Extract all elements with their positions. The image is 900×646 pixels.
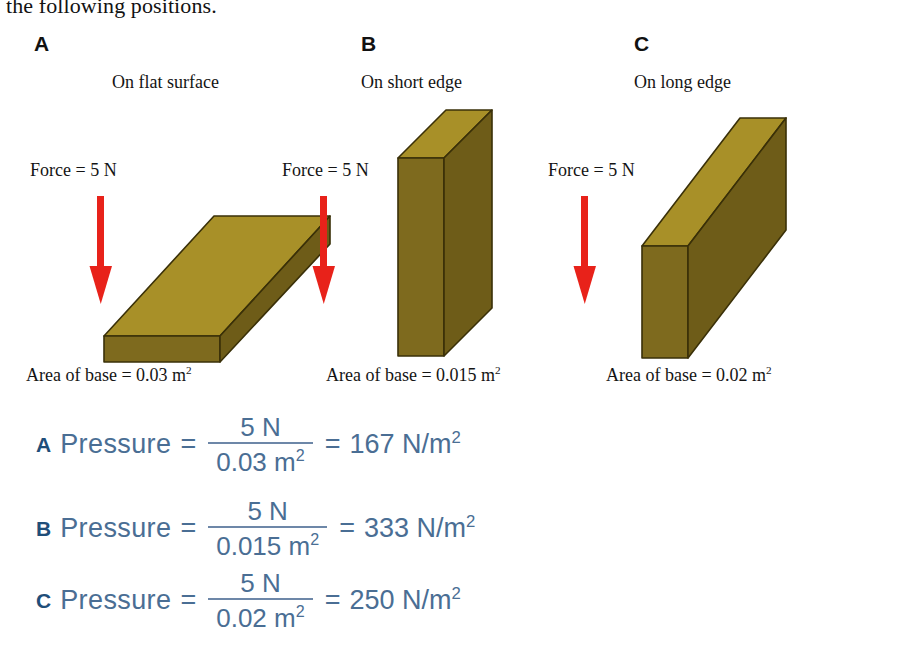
equation-equals2-c: = [325, 587, 341, 614]
equation-equals2-a: = [325, 431, 341, 458]
equation-result-a-text: 167 N/m [349, 429, 451, 459]
force-arrow-c [572, 196, 598, 306]
area-label-c-exponent: 2 [766, 364, 772, 376]
block-c-long-edge [634, 110, 796, 364]
area-label-b: Area of base = 0.015 m2 [326, 364, 501, 386]
equation-word-a: Pressure [60, 431, 171, 458]
equation-equals-b: = [180, 515, 196, 542]
area-label-a: Area of base = 0.03 m2 [26, 364, 192, 386]
equation-fraction-b: 5 N 0.015 m2 [208, 498, 327, 559]
panel-caption-b: On short edge [361, 72, 462, 93]
equation-word-b: Pressure [60, 515, 171, 542]
force-label-b: Force = 5 N [282, 160, 369, 181]
equation-result-b-exponent: 2 [466, 512, 475, 531]
panel-letter-a: A [34, 32, 49, 56]
area-label-c: Area of base = 0.02 m2 [606, 364, 772, 386]
area-label-c-text: Area of base = 0.02 m [606, 365, 766, 385]
area-label-a-exponent: 2 [186, 364, 192, 376]
equation-result-b-text: 333 N/m [364, 513, 466, 543]
equation-denominator-b-text: 0.015 m [216, 531, 310, 561]
panel-caption-c: On long edge [634, 72, 731, 93]
equation-numerator-b: 5 N [239, 498, 295, 526]
block-b-short-edge [382, 106, 508, 362]
equation-numerator-c: 5 N [232, 570, 288, 598]
panel-letter-b: B [361, 32, 376, 56]
equation-denominator-a-text: 0.03 m [216, 447, 296, 477]
equation-denominator-b-exponent: 2 [310, 530, 319, 548]
equation-row-a: A Pressure = 5 N 0.03 m2 = 167 N/m2 [36, 414, 461, 475]
equation-row-b: B Pressure = 5 N 0.015 m2 = 333 N/m2 [36, 498, 475, 559]
equation-equals-a: = [180, 431, 196, 458]
equation-denominator-c-exponent: 2 [296, 602, 305, 620]
equation-row-c: C Pressure = 5 N 0.02 m2 = 250 N/m2 [36, 570, 461, 631]
equation-result-c-exponent: 2 [452, 584, 461, 603]
panel-caption-a: On flat surface [112, 72, 219, 93]
block-a-flat-surface [92, 204, 342, 366]
equation-result-c-text: 250 N/m [349, 585, 451, 615]
equation-numerator-a: 5 N [232, 414, 288, 442]
equation-result-b: 333 N/m2 [364, 514, 475, 542]
equation-equals-c: = [180, 587, 196, 614]
force-label-c: Force = 5 N [548, 160, 635, 181]
equation-word-c: Pressure [60, 587, 171, 614]
equation-denominator-c-text: 0.02 m [216, 603, 296, 633]
force-label-a: Force = 5 N [30, 160, 117, 181]
area-label-b-exponent: 2 [495, 364, 501, 376]
equation-result-a-exponent: 2 [452, 428, 461, 447]
area-label-b-text: Area of base = 0.015 m [326, 365, 495, 385]
equation-letter-a: A [36, 434, 51, 455]
equation-denominator-b: 0.015 m2 [208, 528, 327, 559]
area-label-a-text: Area of base = 0.03 m [26, 365, 186, 385]
equation-equals2-b: = [339, 515, 355, 542]
force-arrow-b [311, 196, 337, 306]
equation-fraction-c: 5 N 0.02 m2 [208, 570, 312, 631]
equation-denominator-c: 0.02 m2 [208, 600, 312, 631]
figure-page: the following positions. A On flat surfa… [0, 0, 900, 646]
equation-letter-c: C [36, 590, 51, 611]
panel-letter-c: C [634, 32, 649, 56]
equation-result-a: 167 N/m2 [349, 430, 460, 458]
lead-sentence: the following positions. [6, 0, 217, 19]
equation-result-c: 250 N/m2 [349, 586, 460, 614]
equation-letter-b: B [36, 518, 51, 539]
equation-fraction-a: 5 N 0.03 m2 [208, 414, 312, 475]
equation-denominator-a-exponent: 2 [296, 446, 305, 464]
equation-denominator-a: 0.03 m2 [208, 444, 312, 475]
